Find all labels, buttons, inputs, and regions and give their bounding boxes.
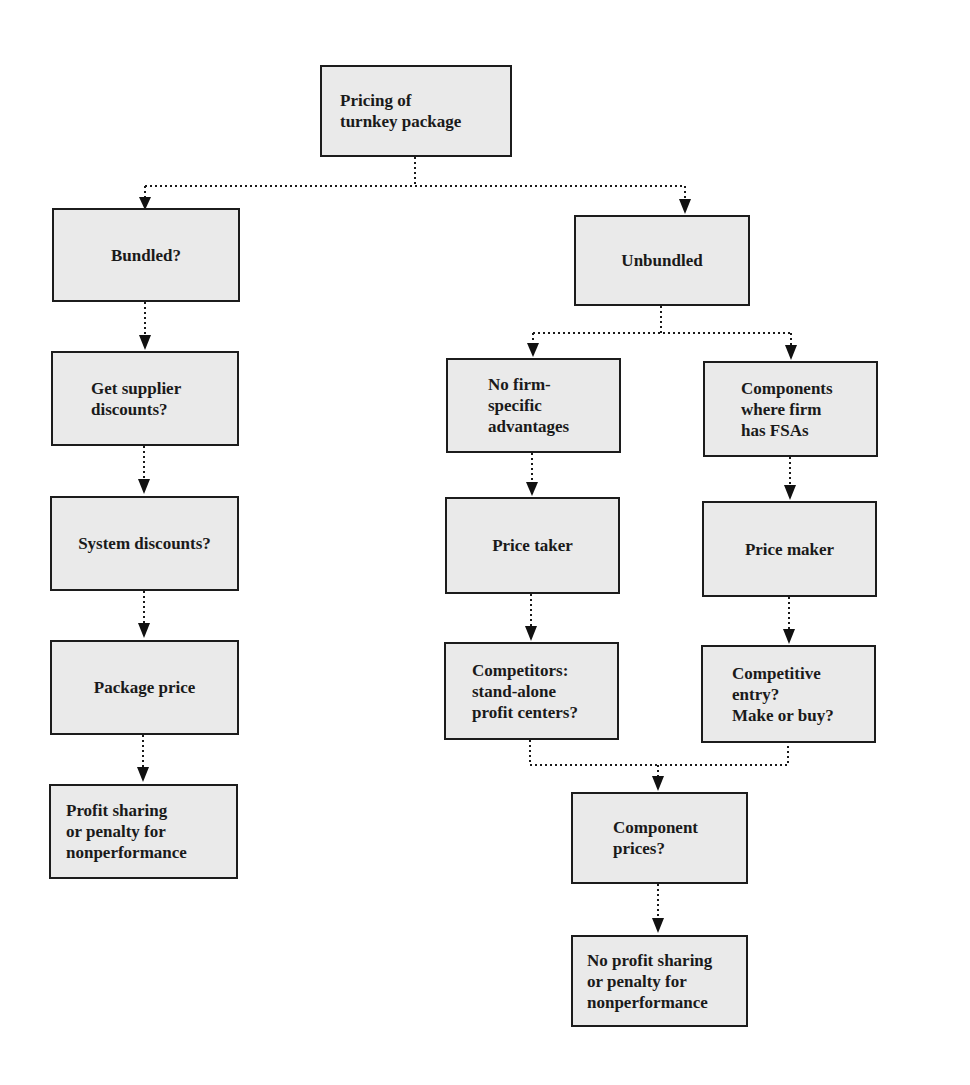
node-label: Competitive entry? Make or buy? bbox=[732, 663, 834, 726]
arrowhead-icon bbox=[137, 767, 149, 782]
node-label: Package price bbox=[94, 677, 196, 698]
node-profit-sharing: Profit sharing or penalty for nonperform… bbox=[49, 784, 238, 879]
node-components-where-firm-has-fsas: Components where firm has FSAs bbox=[703, 361, 878, 457]
node-component-prices: Component prices? bbox=[571, 792, 748, 884]
node-price-taker: Price taker bbox=[445, 497, 620, 594]
arrowhead-icon bbox=[679, 199, 691, 214]
node-system-discounts: System discounts? bbox=[50, 496, 239, 591]
node-price-maker: Price maker bbox=[702, 501, 877, 597]
arrowhead-icon bbox=[652, 776, 664, 791]
turnkey-pricing-flowchart: Pricing of turnkey package Bundled? Get … bbox=[0, 0, 970, 1085]
node-label: Pricing of turnkey package bbox=[340, 90, 461, 132]
arrowhead-icon bbox=[527, 343, 539, 357]
node-label: Price maker bbox=[745, 539, 834, 560]
node-label: System discounts? bbox=[78, 533, 211, 554]
arrowhead-icon bbox=[784, 485, 796, 500]
arrowhead-icon bbox=[652, 918, 664, 933]
node-label: Competitors: stand-alone profit centers? bbox=[472, 660, 578, 723]
arrowhead-icon bbox=[526, 482, 538, 496]
node-unbundled: Unbundled bbox=[574, 215, 750, 306]
node-label: Profit sharing or penalty for nonperform… bbox=[66, 800, 187, 863]
node-label: No profit sharing or penalty for nonperf… bbox=[587, 950, 712, 1013]
node-label: Component prices? bbox=[613, 817, 698, 859]
node-get-supplier-discounts: Get supplier discounts? bbox=[51, 351, 239, 446]
arrowhead-icon bbox=[783, 629, 795, 644]
arrowhead-icon bbox=[525, 626, 537, 641]
node-competitors-profit-centers: Competitors: stand-alone profit centers? bbox=[444, 642, 619, 740]
arrowhead-icon bbox=[139, 335, 151, 350]
arrowhead-icon bbox=[138, 479, 150, 494]
node-no-firm-specific-advantages: No firm- specific advantages bbox=[446, 358, 621, 453]
node-label: Get supplier discounts? bbox=[91, 378, 181, 420]
node-label: No firm- specific advantages bbox=[488, 374, 569, 437]
node-package-price: Package price bbox=[50, 640, 239, 735]
node-label: Price taker bbox=[492, 535, 573, 556]
node-label: Unbundled bbox=[621, 250, 702, 271]
arrowhead-icon bbox=[785, 345, 797, 360]
node-label: Components where firm has FSAs bbox=[741, 378, 833, 441]
arrowhead-icon bbox=[138, 623, 150, 638]
connector-merge bbox=[530, 740, 788, 765]
node-no-profit-sharing: No profit sharing or penalty for nonperf… bbox=[571, 935, 748, 1027]
node-label: Bundled? bbox=[111, 245, 181, 266]
node-pricing-turnkey-package: Pricing of turnkey package bbox=[320, 65, 512, 157]
connector-root-split bbox=[145, 157, 685, 186]
node-bundled: Bundled? bbox=[52, 208, 240, 302]
connector-unbundled-split bbox=[533, 306, 791, 333]
node-competitive-entry-make-or-buy: Competitive entry? Make or buy? bbox=[701, 645, 876, 743]
